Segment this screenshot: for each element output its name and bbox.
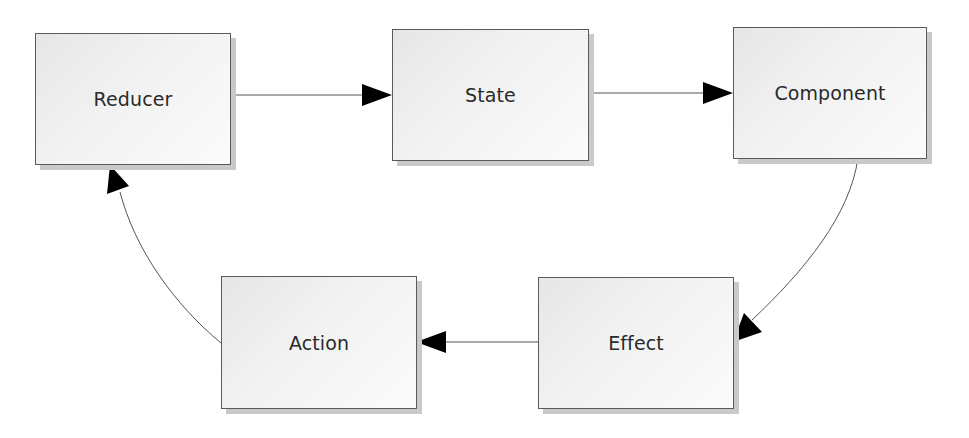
edge-action-to-reducer xyxy=(107,165,221,343)
node-state[interactable]: State xyxy=(392,29,589,161)
arrowhead-icon xyxy=(107,165,129,194)
arrowhead-icon xyxy=(416,331,446,353)
node-effect[interactable]: Effect xyxy=(538,277,734,409)
node-action[interactable]: Action xyxy=(221,276,417,409)
arrowhead-icon xyxy=(362,84,392,106)
node-label: State xyxy=(465,84,516,106)
arrowhead-icon xyxy=(703,82,733,104)
node-component[interactable]: Component xyxy=(733,27,927,159)
node-label: Component xyxy=(774,82,885,104)
edge-state-to-component xyxy=(588,82,733,104)
edge-component-to-effect xyxy=(733,158,858,342)
node-reducer[interactable]: Reducer xyxy=(35,33,231,165)
arrowhead-icon xyxy=(733,313,762,342)
node-label: Reducer xyxy=(94,88,173,110)
node-label: Effect xyxy=(608,332,664,354)
edge-reducer-to-state xyxy=(230,84,392,106)
edge-effect-to-action xyxy=(416,331,538,353)
diagram-canvas: Reducer State Component Effect Action xyxy=(0,0,969,438)
node-label: Action xyxy=(289,332,349,354)
